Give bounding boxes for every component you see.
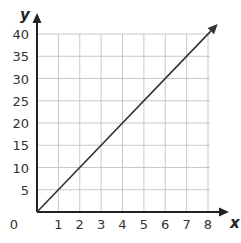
y-axis-label: y [20,6,31,24]
data-line [37,31,211,212]
y-tick-label: 10 [12,161,29,176]
x-tick-label: 5 [140,217,148,232]
y-tick-label: 35 [12,49,29,64]
y-tick-label: 15 [12,138,29,153]
origin-label: 0 [10,217,18,232]
x-tick-label: 8 [204,217,212,232]
x-tick-label: 6 [161,217,169,232]
x-tick-label: 4 [118,217,126,232]
x-tick-label: 3 [97,217,105,232]
x-tick-label: 2 [76,217,84,232]
line-chart: 123456785101520253035400 x y [0,0,241,243]
y-tick-label: 5 [21,183,29,198]
x-tick-label: 1 [54,217,62,232]
x-axis-label: x [229,214,241,232]
y-tick-label: 20 [12,116,29,131]
x-tick-label: 7 [182,217,190,232]
tick-labels: 123456785101520253035400 [10,27,212,232]
y-tick-label: 30 [12,72,29,87]
y-tick-label: 25 [12,94,29,109]
y-axis-arrow-icon [33,13,42,23]
data-series [37,24,218,212]
y-tick-label: 40 [12,27,29,42]
x-axis-arrow-icon [219,208,229,217]
